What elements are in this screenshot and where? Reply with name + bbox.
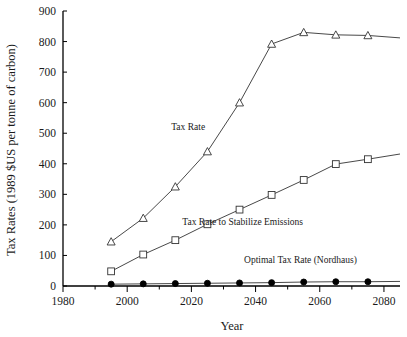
data-point-marker — [269, 280, 275, 286]
data-point-marker — [237, 280, 243, 286]
y-tick-label: 700 — [39, 66, 57, 78]
tax-rates-line-chart: Tax Rates (1989 $US per tonne of carbon)… — [0, 0, 407, 337]
y-tick-label: 500 — [39, 127, 57, 139]
y-tick-label: 100 — [39, 249, 57, 261]
y-tick-label: 300 — [39, 188, 57, 200]
x-tick-label: 2060 — [308, 295, 331, 307]
x-tick-label: 2040 — [244, 295, 267, 307]
x-axis-title: Year — [220, 319, 244, 333]
data-point-marker — [204, 280, 210, 286]
y-tick-label: 900 — [39, 5, 57, 17]
y-tick-label: 200 — [39, 219, 57, 231]
data-point-marker — [301, 279, 307, 285]
data-point-marker — [172, 237, 179, 244]
data-point-marker — [140, 281, 146, 287]
series-annotation-2: Tax Rate to Stabilize Emissions — [182, 217, 303, 227]
data-point-marker — [365, 156, 372, 163]
y-tick-label: 800 — [39, 36, 57, 48]
data-point-marker — [268, 192, 275, 199]
x-tick-label: 2000 — [116, 295, 139, 307]
y-tick-label: 400 — [39, 158, 57, 170]
data-point-marker — [172, 281, 178, 287]
series-annotation-3: Optimal Tax Rate (Nordhaus) — [244, 255, 357, 266]
data-point-marker — [365, 279, 371, 285]
y-tick-label: 0 — [50, 280, 56, 292]
y-axis-title: Tax Rates (1989 $US per tonne of carbon) — [4, 44, 18, 256]
x-tick-label: 2080 — [372, 295, 395, 307]
data-point-marker — [333, 279, 339, 285]
x-tick-label: 2020 — [180, 295, 203, 307]
data-point-marker — [108, 281, 114, 287]
data-point-marker — [332, 161, 339, 168]
x-tick-label: 1980 — [52, 295, 75, 307]
data-point-marker — [300, 177, 307, 184]
data-point-marker — [236, 206, 243, 213]
data-point-marker — [140, 251, 147, 258]
data-point-marker — [108, 268, 115, 275]
y-tick-label: 600 — [39, 97, 57, 109]
chart-container: Tax Rates (1989 $US per tonne of carbon)… — [0, 0, 407, 337]
series-annotation-1: Tax Rate — [171, 122, 205, 132]
